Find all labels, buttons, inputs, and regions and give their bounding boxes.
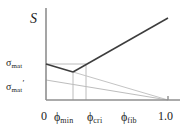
- x-tick-phi-cri: ϕcri: [87, 111, 102, 123]
- y-axis-label: S: [30, 12, 37, 26]
- y-tick-sigma-mat-prime: σmat′: [6, 82, 24, 92]
- x-tick-zero: 0: [41, 110, 47, 122]
- y-tick-sigma-mat: σmat: [6, 58, 23, 68]
- matrix-contribution-guide: [46, 80, 168, 100]
- phi-min-subscript: min: [60, 116, 73, 125]
- composite-strength-falling-branch: [46, 64, 73, 72]
- sigma-mat-subscript: mat: [11, 62, 22, 70]
- x-tick-phi-min: ϕmin: [54, 111, 73, 123]
- figure-container: S σmat σmat′ 0 ϕmin ϕcri ϕfib 1.0: [0, 0, 186, 133]
- x-tick-one: 1.0: [158, 110, 173, 122]
- phi-cri-subscript: cri: [93, 116, 102, 125]
- fiber-contribution-guide: [73, 72, 168, 100]
- sigma-mat-subscript: mat: [11, 86, 22, 94]
- phi-fib-subscript: fib: [127, 116, 137, 125]
- x-tick-phi-fib: ϕfib: [121, 111, 137, 123]
- composite-strength-rising-branch: [73, 18, 168, 72]
